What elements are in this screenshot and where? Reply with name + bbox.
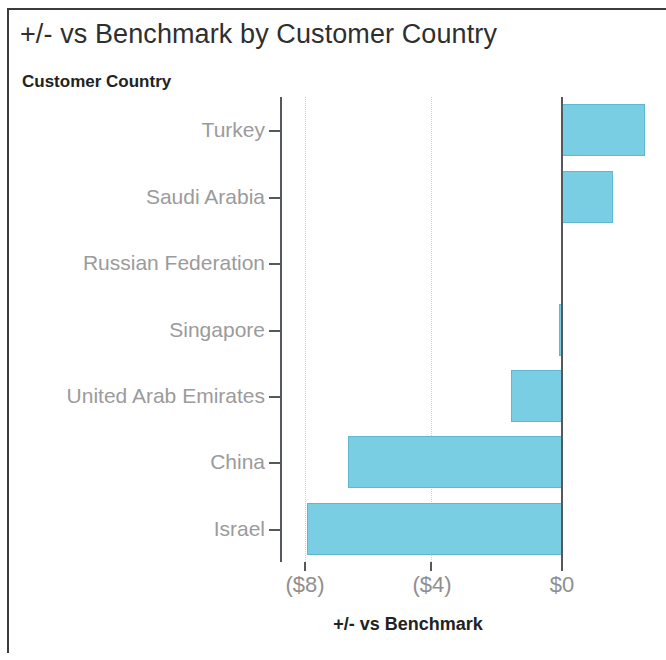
- y-tick-mark: [269, 529, 280, 531]
- y-tick-label-russian-federation: Russian Federation: [0, 251, 265, 275]
- zero-reference-line: [561, 97, 563, 562]
- y-tick-label-turkey: Turkey: [0, 118, 265, 142]
- y-axis-line: [280, 97, 282, 562]
- y-tick-label-saudi-arabia: Saudi Arabia: [0, 185, 265, 209]
- x-axis-title-text: +/- vs Benchmark: [183, 614, 483, 635]
- y-tick-mark: [269, 130, 280, 132]
- x-tick-mark-minus8: [304, 562, 306, 571]
- x-axis-title: +/- vs Benchmark: [0, 614, 666, 635]
- x-tick-label-minus4: ($4): [412, 572, 451, 598]
- x-tick-mark-minus4: [430, 562, 432, 571]
- bar[interactable]: [511, 370, 562, 422]
- plot-area: TurkeySaudi ArabiaRussian FederationSing…: [0, 0, 666, 660]
- bar[interactable]: [562, 104, 645, 156]
- bar[interactable]: [348, 436, 562, 488]
- bar[interactable]: [307, 503, 562, 555]
- y-tick-label-united-arab-emirates: United Arab Emirates: [0, 384, 265, 408]
- y-tick-mark: [269, 330, 280, 332]
- bar[interactable]: [562, 171, 613, 223]
- x-tick-label-zero: $0: [550, 572, 574, 598]
- y-tick-mark: [269, 263, 280, 265]
- y-tick-mark: [269, 396, 280, 398]
- y-tick-label-china: China: [0, 450, 265, 474]
- y-tick-mark: [269, 197, 280, 199]
- gridline-minus4: [431, 97, 433, 562]
- y-tick-mark: [269, 462, 280, 464]
- x-tick-label-minus8: ($8): [285, 572, 324, 598]
- x-tick-mark-zero: [561, 562, 563, 571]
- gridline-minus8: [305, 97, 307, 562]
- y-tick-label-singapore: Singapore: [0, 318, 265, 342]
- y-tick-label-israel: Israel: [0, 517, 265, 541]
